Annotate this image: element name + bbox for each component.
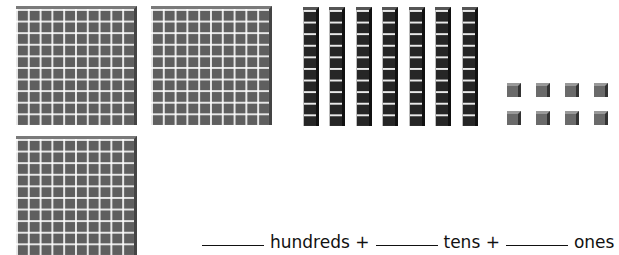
tens-rod-7 <box>462 7 478 126</box>
tens-rod-2 <box>329 7 345 126</box>
tens-rod-5 <box>409 7 425 126</box>
tens-rod-4 <box>382 7 398 126</box>
tens-rod-3 <box>356 7 372 126</box>
ones-label: ones <box>574 232 615 252</box>
tens-blank[interactable] <box>376 245 438 246</box>
hundreds-flat-2 <box>151 6 272 125</box>
tens-label: tens + <box>444 232 500 252</box>
ones-cube-8 <box>594 111 608 125</box>
tens-rod-6 <box>435 7 451 126</box>
ones-cube-4 <box>594 83 608 97</box>
hundreds-blank[interactable] <box>202 245 264 246</box>
ones-cube-7 <box>565 111 579 125</box>
ones-cube-1 <box>507 83 521 97</box>
ones-cube-2 <box>536 83 550 97</box>
ones-cube-3 <box>565 83 579 97</box>
ones-blank[interactable] <box>506 245 568 246</box>
hundreds-label: hundreds + <box>270 232 370 252</box>
ones-cube-5 <box>507 111 521 125</box>
answer-caption: hundreds +tens +ones <box>202 232 614 252</box>
hundreds-flat-3 <box>16 136 137 255</box>
hundreds-flat-1 <box>16 6 137 125</box>
ones-cube-6 <box>536 111 550 125</box>
tens-rod-1 <box>303 7 319 126</box>
